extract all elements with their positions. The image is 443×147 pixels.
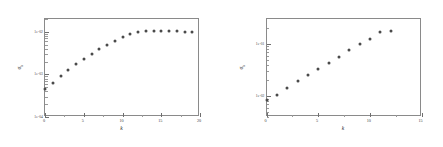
y-axis-label-left: σk: [16, 65, 24, 70]
data-point: [121, 35, 124, 38]
y-tick-minor: [267, 108, 270, 109]
data-point: [348, 49, 351, 52]
x-tick-minor: [181, 115, 182, 118]
data-point: [160, 30, 163, 33]
data-point: [67, 68, 70, 71]
x-tick-major: [84, 113, 85, 117]
y-tick-major: [267, 96, 271, 97]
y-tick-minor: [267, 28, 270, 29]
x-tick-label: 15: [418, 118, 422, 123]
y-tick-minor: [45, 62, 48, 63]
y-tick-minor: [267, 80, 270, 81]
y-tick-minor: [45, 91, 48, 92]
x-tick-major: [123, 113, 124, 117]
data-point: [106, 43, 109, 46]
y-tick-label: 1e-03: [34, 72, 43, 76]
data-point: [82, 57, 85, 60]
y-axis-label-right: σk: [237, 65, 245, 70]
x-tick-major: [200, 113, 201, 117]
y-tick-minor: [45, 34, 48, 35]
y-axis-label-left-subscript: k: [20, 65, 24, 67]
data-point: [286, 86, 289, 89]
data-point: [51, 81, 54, 84]
x-axis-label-right: k: [342, 125, 344, 131]
x-tick-label: 0: [43, 118, 45, 123]
data-point: [389, 30, 392, 33]
y-tick-label: 1e-01: [256, 42, 265, 46]
y-tick-minor: [267, 101, 270, 102]
data-point: [44, 88, 47, 91]
data-point: [168, 30, 171, 33]
x-tick-minor: [64, 115, 65, 118]
x-tick-major: [318, 113, 319, 117]
x-tick-major: [45, 113, 46, 117]
data-point: [59, 74, 62, 77]
x-tick-label: 5: [316, 118, 318, 123]
y-tick-minor: [45, 19, 48, 20]
figure-two-panel-scatter: 1e-041e-031e-02 k σk 05101520 1e-021e-01…: [0, 0, 443, 147]
x-tick-label: 0: [264, 118, 266, 123]
data-point: [175, 30, 178, 33]
data-point: [137, 31, 140, 34]
y-tick-minor: [45, 104, 48, 105]
x-tick-minor: [292, 115, 293, 118]
y-tick-minor: [45, 49, 48, 50]
x-tick-label: 5: [82, 118, 84, 123]
data-point: [75, 63, 78, 66]
data-point: [144, 30, 147, 33]
data-point: [265, 98, 268, 101]
data-point: [129, 32, 132, 35]
y-tick-minor: [267, 46, 270, 47]
y-tick-minor: [45, 45, 48, 46]
x-tick-minor: [396, 115, 397, 118]
y-tick-minor: [267, 49, 270, 50]
data-point: [306, 74, 309, 77]
x-tick-minor: [142, 115, 143, 118]
y-tick-label: 1e-02: [256, 94, 265, 98]
y-tick-minor: [45, 54, 48, 55]
x-tick-major: [267, 113, 268, 117]
y-tick-minor: [45, 76, 48, 77]
y-tick-minor: [267, 60, 270, 61]
plot-area-right: 1e-021e-01: [266, 18, 421, 116]
y-axis-label-right-symbol: σ: [237, 66, 243, 69]
y-tick-minor: [267, 104, 270, 105]
data-point: [327, 61, 330, 64]
data-point: [296, 80, 299, 83]
y-tick-minor: [267, 56, 270, 57]
data-point: [113, 39, 116, 42]
data-point: [90, 52, 93, 55]
data-point: [368, 38, 371, 41]
x-tick-major: [370, 113, 371, 117]
x-tick-label: 10: [367, 118, 371, 123]
y-tick-major: [45, 32, 49, 33]
y-tick-major: [45, 74, 49, 75]
y-tick-minor: [45, 79, 48, 80]
panel-left: 1e-041e-031e-02 k σk 05101520: [0, 0, 222, 147]
data-point: [191, 30, 194, 33]
data-point: [358, 43, 361, 46]
data-point: [275, 94, 278, 97]
y-tick-major: [267, 44, 271, 45]
plot-area-left: 1e-041e-031e-02: [44, 18, 199, 116]
y-tick-minor: [45, 36, 48, 37]
x-axis-label-left: k: [120, 125, 122, 131]
y-axis-label-left-symbol: σ: [16, 66, 22, 69]
x-tick-minor: [344, 115, 345, 118]
y-tick-label: 1e-02: [34, 30, 43, 34]
x-tick-label: 10: [119, 118, 123, 123]
x-tick-minor: [103, 115, 104, 118]
data-point: [183, 30, 186, 33]
x-tick-major: [161, 113, 162, 117]
x-tick-label: 20: [197, 118, 201, 123]
x-tick-major: [422, 113, 423, 117]
y-tick-minor: [267, 52, 270, 53]
y-tick-minor: [267, 117, 270, 118]
y-tick-major: [45, 117, 49, 118]
data-point: [98, 48, 101, 51]
y-tick-minor: [45, 41, 48, 42]
x-tick-label: 15: [158, 118, 162, 123]
y-tick-minor: [267, 65, 270, 66]
y-tick-minor: [267, 71, 270, 72]
y-tick-label: 1e-04: [34, 115, 43, 119]
